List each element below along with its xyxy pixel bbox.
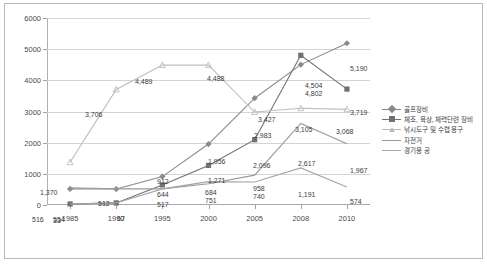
data-point-marker: [67, 186, 73, 192]
data-label: 512: [98, 200, 110, 207]
legend-item[interactable]: 경기용 공: [382, 145, 487, 155]
legend-swatch-icon: [382, 115, 401, 124]
y-tick-mark: [43, 205, 47, 206]
legend-label: 경기용 공: [404, 146, 430, 155]
legend-item[interactable]: 자전거: [382, 135, 487, 145]
data-label: 4,504: [305, 82, 323, 89]
legend-swatch-icon: [382, 105, 401, 114]
y-axis-label: 2000: [24, 138, 41, 147]
data-label: 1,967: [350, 167, 368, 174]
data-label: 1,956: [208, 158, 226, 165]
data-label: 4,489: [135, 78, 153, 85]
y-axis-label: 4000: [24, 76, 41, 85]
legend-label: 골프장비: [404, 105, 428, 114]
x-tick-mark: [301, 205, 302, 209]
x-axis-label: 2010: [339, 214, 356, 223]
x-axis-label: 2005: [246, 214, 263, 223]
data-label: 3,427: [258, 116, 276, 123]
chart-legend: 골프장비체조, 육상, 체력단련 장비낚시도구 및 수렵 용구자전거경기용 공: [382, 104, 487, 155]
chart-frame: 0100020003000400050006000 19851990199520…: [4, 3, 483, 259]
data-label: 67: [117, 215, 125, 222]
x-tick-mark: [116, 205, 117, 209]
data-label: 912: [157, 178, 169, 185]
plot-area: 0100020003000400050006000 19851990199520…: [47, 18, 370, 205]
data-label: 516: [32, 216, 44, 223]
data-label: 2,983: [254, 132, 272, 139]
x-tick-mark: [347, 205, 348, 209]
legend-swatch-icon: [382, 136, 401, 145]
data-label: 958: [253, 185, 265, 192]
x-axis-label: 2000: [200, 214, 217, 223]
legend-item[interactable]: 골프장비: [382, 104, 487, 114]
data-label: 1,370: [40, 189, 58, 196]
data-label: 684: [205, 189, 217, 196]
data-label: 5,190: [350, 65, 368, 72]
y-axis-label: 1000: [24, 169, 41, 178]
data-label: 1,271: [208, 177, 226, 184]
data-label: 644: [157, 191, 169, 198]
legend-swatch-icon: [382, 125, 401, 134]
legend-item[interactable]: 체조, 육상, 체력단련 장비: [382, 114, 487, 124]
data-label: 574: [350, 198, 362, 205]
legend-item[interactable]: 낚시도구 및 수렵 용구: [382, 125, 487, 135]
data-label: 4,488: [207, 75, 225, 82]
y-axis-label: 0: [37, 201, 41, 210]
data-label: 2,617: [298, 160, 316, 167]
data-label: 3,105: [295, 126, 313, 133]
data-label: 2,096: [253, 162, 271, 169]
x-tick-mark: [209, 205, 210, 209]
data-point-marker: [344, 86, 349, 91]
data-label: 3,706: [85, 111, 103, 118]
legend-label: 자전거: [404, 136, 422, 145]
legend-label: 체조, 육상, 체력단련 장비: [404, 115, 473, 124]
data-label: 751: [205, 197, 217, 204]
y-axis-label: 5000: [24, 45, 41, 54]
chart-container: 0100020003000400050006000 19851990199520…: [0, 0, 487, 265]
y-axis-label: 6000: [24, 14, 41, 23]
y-axis-label: 3000: [24, 107, 41, 116]
data-point-marker: [298, 53, 303, 58]
legend-label: 낚시도구 및 수렵 용구: [404, 125, 464, 134]
data-label: 4,802: [305, 90, 323, 97]
data-label: 554: [53, 216, 65, 223]
legend-swatch-icon: [382, 146, 401, 155]
data-point-marker: [344, 40, 350, 46]
data-label: 740: [253, 193, 265, 200]
data-label: 517: [157, 201, 169, 208]
x-axis-label: 1995: [154, 214, 171, 223]
data-label: 1,191: [298, 191, 316, 198]
data-label: 3,719: [350, 109, 368, 116]
data-label: 3,068: [336, 128, 354, 135]
x-axis-label: 2008: [292, 214, 309, 223]
x-tick-mark: [255, 205, 256, 209]
